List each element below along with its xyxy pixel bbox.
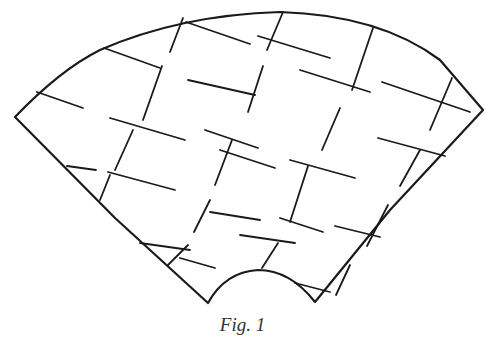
grid-strokes bbox=[37, 12, 470, 295]
figure-caption: Fig. 1 bbox=[0, 314, 485, 336]
grid-stroke bbox=[67, 166, 96, 170]
grid-stroke bbox=[210, 212, 260, 220]
grid-stroke bbox=[322, 108, 340, 150]
grid-stroke bbox=[110, 118, 185, 140]
grid-stroke bbox=[100, 175, 110, 200]
grid-stroke bbox=[382, 82, 470, 112]
grid-stroke bbox=[170, 18, 183, 52]
grid-stroke bbox=[215, 140, 232, 185]
fan-shaped-grid-figure bbox=[0, 0, 485, 340]
sector-outline bbox=[15, 12, 483, 303]
grid-stroke bbox=[108, 172, 175, 190]
grid-stroke bbox=[104, 48, 160, 68]
grid-stroke bbox=[352, 28, 373, 90]
grid-stroke bbox=[37, 92, 83, 108]
grid-stroke bbox=[378, 138, 445, 156]
grid-stroke bbox=[367, 205, 388, 246]
grid-stroke bbox=[290, 166, 308, 222]
grid-stroke bbox=[290, 160, 355, 178]
grid-stroke bbox=[194, 200, 210, 232]
grid-stroke bbox=[262, 243, 278, 268]
grid-stroke bbox=[180, 258, 215, 268]
grid-stroke bbox=[336, 265, 350, 295]
grid-stroke bbox=[240, 235, 295, 243]
grid-stroke bbox=[186, 22, 250, 44]
grid-stroke bbox=[143, 66, 162, 120]
grid-stroke bbox=[205, 130, 258, 148]
grid-stroke bbox=[220, 150, 275, 168]
grid-stroke bbox=[280, 218, 323, 232]
grid-stroke bbox=[300, 70, 370, 92]
grid-stroke bbox=[248, 66, 263, 112]
grid-stroke bbox=[267, 12, 283, 50]
grid-stroke bbox=[188, 80, 255, 95]
grid-stroke bbox=[115, 130, 133, 170]
